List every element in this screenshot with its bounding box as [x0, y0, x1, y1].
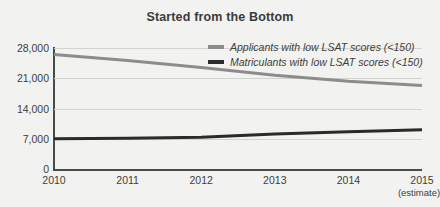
legend-item[interactable]: Matriculants with low LSAT scores (<150): [208, 55, 423, 68]
y-axis-tick-label: 14,000: [3, 103, 49, 115]
legend-label: Applicants with low LSAT scores (<150): [230, 41, 415, 53]
y-axis-tick-label: 7,000: [3, 133, 49, 145]
chart-legend: Applicants with low LSAT scores (<150)Ma…: [208, 40, 423, 70]
x-axis-tick-label: 2012: [190, 174, 213, 186]
x-axis-tick-label: 2011: [116, 174, 139, 186]
series-line-matriculants: [54, 130, 422, 139]
legend-swatch-icon: [208, 45, 224, 49]
x-axis-tick-label: 2013: [263, 174, 286, 186]
x-axis-tick-note: (estimate): [398, 187, 440, 198]
legend-item[interactable]: Applicants with low LSAT scores (<150): [208, 40, 423, 53]
x-axis-line: [53, 169, 422, 171]
chart-title: Started from the Bottom: [0, 10, 440, 24]
y-axis-tick-label: 28,000: [3, 42, 49, 54]
x-axis-tick-label: 2014: [337, 174, 360, 186]
x-axis-tick-label: 2010: [42, 174, 65, 186]
legend-label: Matriculants with low LSAT scores (<150): [230, 56, 423, 68]
legend-swatch-icon: [208, 60, 224, 64]
chart-container: Started from the Bottom 07,00014,00021,0…: [0, 0, 440, 207]
x-axis-tick-label: 2015: [410, 174, 433, 186]
y-axis-tick-label: 21,000: [3, 72, 49, 84]
